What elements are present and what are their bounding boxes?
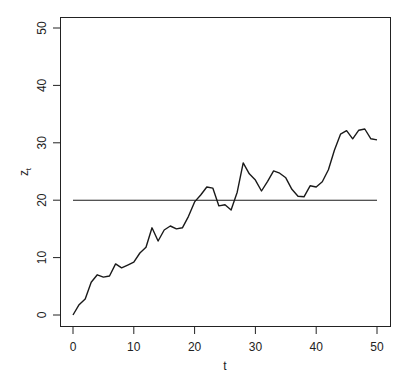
y-tick-label: 20 <box>35 193 49 207</box>
y-axis-title-subscript: t <box>24 167 33 170</box>
line-chart: 01020304050 01020304050 t zt <box>0 0 408 383</box>
x-axis-title: t <box>223 359 227 373</box>
y-tick-label: 10 <box>35 251 49 265</box>
y-axis: 01020304050 <box>35 21 61 318</box>
x-tick-label: 10 <box>127 340 141 354</box>
x-tick-label: 0 <box>70 340 77 354</box>
y-axis-title: zt <box>17 167 33 176</box>
y-tick-label: 30 <box>35 136 49 150</box>
x-tick-label: 20 <box>188 340 202 354</box>
y-tick-label: 50 <box>35 21 49 35</box>
plot-frame <box>61 18 391 327</box>
series-layer <box>73 129 377 315</box>
x-tick-label: 30 <box>249 340 263 354</box>
series-line-zt <box>73 129 377 315</box>
x-tick-label: 40 <box>310 340 324 354</box>
y-tick-label: 40 <box>35 78 49 92</box>
svg-text:zt: zt <box>17 167 33 176</box>
y-tick-label: 0 <box>35 311 49 318</box>
x-axis: 01020304050 <box>70 327 384 355</box>
x-tick-label: 50 <box>370 340 384 354</box>
